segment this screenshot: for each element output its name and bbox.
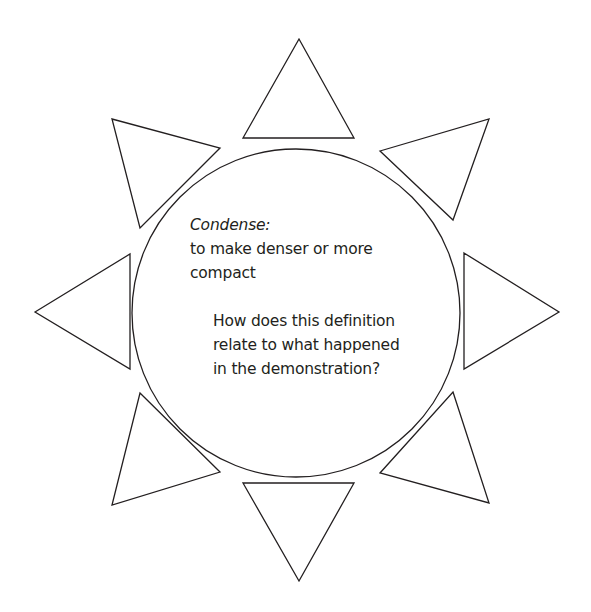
triangle-right xyxy=(464,253,559,369)
triangle-left xyxy=(35,254,130,369)
question-text: How does this definition relate to what … xyxy=(213,309,413,381)
term-label: Condense: xyxy=(190,213,410,237)
definition-text: to make denser or more compact xyxy=(190,237,410,285)
sun-diagram xyxy=(0,0,591,612)
triangle-bottom xyxy=(243,483,354,581)
triangle-top xyxy=(243,39,354,138)
definition-block: Condense: to make denser or more compact xyxy=(190,213,410,285)
